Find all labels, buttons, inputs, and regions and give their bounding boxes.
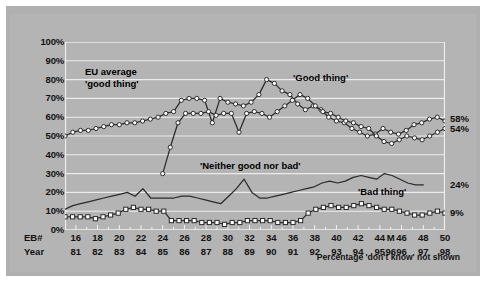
series-marker (443, 211, 445, 215)
series-marker (351, 121, 355, 125)
y-tick-20: 20% (46, 186, 64, 197)
series-marker (199, 111, 203, 115)
series-marker (443, 119, 445, 123)
series-marker (168, 145, 172, 149)
x-tick-year-89-8: 89 (244, 246, 255, 257)
right-label-9: 9% (450, 207, 464, 218)
series-marker (291, 220, 295, 224)
x-tick-eb-34: 34 (266, 232, 277, 243)
series-marker (428, 134, 432, 138)
series-marker (86, 215, 90, 219)
series-marker (404, 128, 408, 132)
series-marker (280, 89, 284, 93)
x-tick-year-81-0: 81 (71, 246, 82, 257)
series-marker (296, 102, 300, 106)
series-marker (184, 111, 188, 115)
series-marker (435, 130, 439, 134)
series-marker (290, 98, 294, 102)
right-label-24: 24% (450, 179, 469, 190)
annotation-eu-average-line1: EU average (85, 66, 139, 78)
series-marker (207, 220, 211, 224)
series-marker (428, 211, 432, 215)
series-marker (253, 219, 257, 223)
series-marker (172, 110, 176, 114)
series-marker (359, 125, 363, 129)
series-marker (116, 211, 120, 215)
series-marker (382, 207, 386, 211)
series-marker (367, 204, 371, 208)
x-tick-eb-36: 36 (288, 232, 299, 243)
y-axis-labels: 0%10%20%30%40%50%60%70%80%90%100% (24, 36, 64, 236)
series-marker (298, 93, 302, 97)
series-marker (261, 219, 265, 223)
series-marker (200, 220, 204, 224)
series-marker (161, 172, 165, 176)
series-marker (358, 130, 362, 134)
series-marker (177, 219, 181, 223)
y-tick-80: 80% (46, 74, 64, 85)
series-marker (382, 140, 386, 144)
annotation-eu-average-line2: 'good thing' (85, 78, 139, 90)
series-marker (268, 219, 272, 223)
series-marker (65, 134, 67, 138)
series-marker (420, 213, 424, 217)
series-marker (154, 209, 158, 213)
series-marker (86, 128, 90, 132)
x-tick-eb-48: 48 (418, 232, 429, 243)
series-marker (187, 96, 191, 100)
series-marker (314, 207, 318, 211)
series-marker (375, 205, 379, 209)
x-tick-eb-M: M (387, 232, 395, 243)
x-tick-eb-28: 28 (201, 232, 212, 243)
x-tick-year-83-2: 83 (114, 246, 125, 257)
x-tick-eb-38: 38 (309, 232, 320, 243)
x-tick-eb-30: 30 (223, 232, 234, 243)
right-label-58: 58% (450, 113, 469, 124)
series-marker (303, 108, 307, 112)
series-marker (203, 98, 207, 102)
series-marker (195, 96, 199, 100)
series-marker (283, 104, 287, 108)
series-marker (71, 130, 75, 134)
series-marker (306, 96, 310, 100)
series-marker (405, 211, 409, 215)
series-marker (390, 141, 394, 145)
x-tick-year-82-1: 82 (92, 246, 103, 257)
series-marker (109, 123, 113, 127)
x-tick-eb-42: 42 (353, 232, 364, 243)
series-marker (109, 213, 113, 217)
series-marker (179, 98, 183, 102)
series-marker (412, 123, 416, 127)
series-marker (241, 104, 245, 108)
footnote: Percentage 'don't know' not shown (317, 252, 460, 262)
x-tick-year-86-5: 86 (179, 246, 190, 257)
series-marker (413, 213, 417, 217)
x-tick-eb-26: 26 (179, 232, 190, 243)
series-marker (176, 121, 180, 125)
series-marker (65, 215, 67, 219)
series-marker (185, 219, 189, 223)
series-marker (215, 220, 219, 224)
series-marker (276, 220, 280, 224)
x-tick-eb-40: 40 (331, 232, 342, 243)
chart-panel: 0%10%20%30%40%50%60%70%80%90%100% EB# Ye… (10, 14, 476, 272)
series-marker (124, 207, 128, 211)
y-tick-10: 10% (46, 205, 64, 216)
series-marker (321, 110, 325, 114)
x-tick-eb-50: 50 (440, 232, 451, 243)
series-marker (147, 207, 151, 211)
chart-figure: 0%10%20%30%40%50%60%70%80%90%100% EB# Ye… (0, 0, 486, 282)
series-marker (260, 111, 264, 115)
x-tick-year-85-4: 85 (157, 246, 168, 257)
series-marker (210, 121, 214, 125)
series-marker (397, 209, 401, 213)
series-marker (350, 126, 354, 130)
y-tick-40: 40% (46, 149, 64, 160)
series-marker (443, 126, 445, 130)
series-marker (93, 217, 97, 221)
x-tick-year-90-9: 90 (266, 246, 277, 257)
series-marker (306, 211, 310, 215)
series-marker (101, 215, 105, 219)
series-marker (257, 93, 261, 97)
series-marker (249, 100, 253, 104)
